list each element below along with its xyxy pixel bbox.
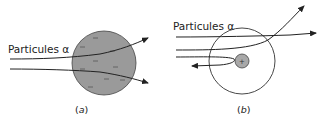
panel-b-caption: (b): [237, 104, 250, 115]
panel-a: Particules α (a): [8, 31, 148, 115]
nucleus-charge: +: [239, 58, 245, 66]
thomson-sphere: [72, 31, 136, 95]
diagram-canvas: Particules α (a) Particules α + (b): [0, 0, 324, 117]
panel-b-label: Particules α: [173, 20, 234, 32]
alpha-trajectory-straight: [176, 33, 316, 37]
panel-a-caption: (a): [75, 104, 88, 115]
panel-a-label: Particules α: [8, 43, 69, 55]
alpha-trajectory-backscattered: [176, 57, 234, 66]
panel-b: Particules α + (b): [173, 6, 316, 115]
